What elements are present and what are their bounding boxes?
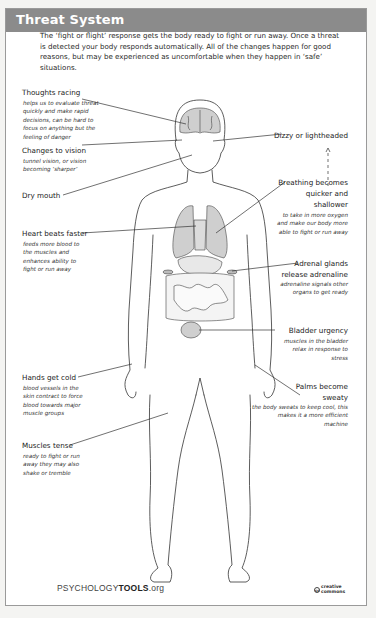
label-heart-beats-faster: Heart beats faster (22, 229, 87, 238)
leader-breathing (216, 182, 285, 233)
left-leg-outline (149, 395, 196, 582)
leader-palms (255, 365, 300, 395)
desc-changes-to-vision: tunnel vision, or vision becoming ‘sharp… (23, 157, 93, 174)
label-adrenal-2: release adrenaline (281, 270, 348, 279)
label-dizzy: Dizzy or lightheaded (274, 131, 348, 140)
label-breathing-3: shallower (314, 200, 348, 209)
label-muscles-tense: Muscles tense (22, 441, 73, 450)
right-arm-inner (247, 235, 255, 368)
label-breathing-2: quicker and (306, 189, 348, 198)
desc-muscles-tense: ready to fight or run away they may also… (23, 452, 95, 477)
label-dry-mouth: Dry mouth (22, 191, 60, 200)
label-palms-1: Palms become (296, 382, 348, 391)
desc-hands-get-cold: blood vessels in the skin contract to fo… (23, 384, 91, 418)
desc-heart-beats-faster: feeds more blood to the muscles and enha… (23, 240, 83, 274)
right-lung (206, 206, 227, 258)
label-palms-2: sweaty (322, 393, 348, 402)
left-arm-inner (145, 235, 153, 368)
leader-hands (78, 364, 132, 377)
desc-adrenal: adrenaline signals other organs to get r… (280, 280, 348, 297)
heart (194, 220, 206, 250)
leader-dizzy (213, 134, 282, 141)
right-leg-outline (204, 395, 251, 582)
desc-palms: the body sweats to keep cool, this makes… (252, 403, 348, 428)
left-lung (173, 206, 194, 258)
label-hands-get-cold: Hands get cold (22, 373, 76, 382)
psychologytools-logo: PSYCHOLOGYTOOLS.org (57, 583, 164, 593)
desc-breathing: to take in more oxygen and make our body… (276, 211, 348, 236)
label-adrenal-1: Adrenal glands (294, 259, 348, 268)
liver-stomach (178, 256, 222, 275)
creative-commons-badge: cc creative commons (314, 585, 345, 594)
desc-bladder-urgency: muscles in the bladder relax in response… (278, 337, 348, 362)
label-changes-to-vision: Changes to vision (22, 146, 86, 155)
desc-thoughts-racing: helps us to evaluate threat quickly and … (23, 99, 105, 141)
label-thoughts-racing: Thoughts racing (22, 88, 80, 97)
bladder (181, 322, 201, 338)
adrenal-left (163, 270, 173, 274)
leader-muscles (70, 413, 168, 445)
cc-icon: cc (314, 587, 320, 593)
label-bladder-urgency: Bladder urgency (289, 326, 348, 335)
crotch (196, 378, 204, 395)
brain (180, 108, 220, 133)
label-breathing-1: Breathing becomes (278, 178, 348, 187)
